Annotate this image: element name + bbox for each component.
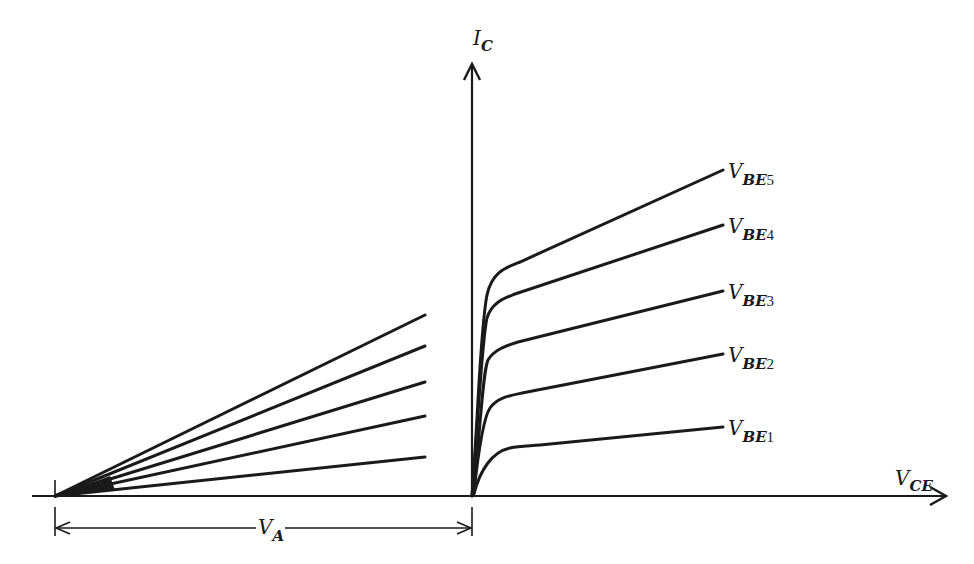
label-vbe5: VBE5 (728, 159, 774, 189)
curve-vbe3 (474, 291, 723, 490)
curve-vbe1 (474, 427, 723, 494)
characteristic-curves (472, 170, 723, 496)
va-label: VA (258, 515, 284, 545)
label-vbe1: VBE1 (728, 416, 774, 446)
x-axis-label: VCE (895, 466, 933, 495)
curve-labels: VBE5 VBE4 VBE3 VBE2 VBE1 (728, 159, 775, 446)
curve-vbe2 (474, 354, 723, 492)
extrapolation-line-vbe5 (55, 315, 425, 496)
label-vbe2: VBE2 (728, 343, 774, 373)
extrapolation-lines (55, 315, 425, 496)
label-vbe4: VBE4 (728, 214, 775, 244)
y-axis-label: IC (472, 26, 493, 55)
label-vbe3: VBE3 (728, 280, 774, 310)
extrapolation-line-vbe4 (55, 346, 425, 496)
convergence-point (55, 476, 115, 496)
early-effect-diagram: VCE IC VBE5 VBE4 VBE3 (0, 0, 974, 564)
